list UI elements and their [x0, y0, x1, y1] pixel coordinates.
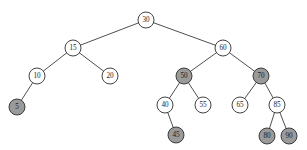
node-label-65: 65 [237, 101, 244, 109]
tree-node-20[interactable]: 20 [102, 68, 118, 84]
tree-node-80[interactable]: 80 [259, 128, 275, 144]
tree-edge-10-5 [21, 82, 33, 100]
tree-nodes: 30156010205070540556585458090 [9, 12, 297, 144]
tree-edge-15-10 [43, 53, 67, 72]
tree-node-55[interactable]: 55 [195, 97, 211, 113]
binary-tree-diagram: 30156010205070540556585458090 [0, 0, 307, 150]
node-label-5: 5 [15, 103, 19, 111]
tree-edge-85-80 [269, 112, 274, 129]
node-label-70: 70 [258, 72, 265, 80]
node-label-60: 60 [220, 44, 227, 52]
node-label-90: 90 [286, 132, 293, 140]
tree-node-90[interactable]: 90 [281, 128, 297, 144]
tree-node-60[interactable]: 60 [215, 40, 231, 56]
tree-node-70[interactable]: 70 [253, 68, 269, 84]
tree-node-15[interactable]: 15 [65, 40, 81, 56]
tree-node-50[interactable]: 50 [176, 68, 192, 84]
node-label-10: 10 [34, 72, 41, 80]
tree-edge-70-65 [244, 82, 256, 99]
tree-node-5[interactable]: 5 [9, 99, 25, 115]
tree-node-40[interactable]: 40 [157, 97, 173, 113]
tree-edge-15-20 [79, 53, 104, 72]
tree-edge-85-90 [280, 112, 287, 129]
tree-edge-70-85 [265, 83, 274, 99]
node-label-55: 55 [200, 101, 207, 109]
tree-edge-60-70 [229, 52, 255, 71]
tree-edge-30-15 [80, 23, 139, 46]
node-label-80: 80 [264, 132, 271, 140]
tree-edge-30-60 [153, 23, 216, 46]
tree-edge-60-50 [190, 52, 217, 71]
tree-node-85[interactable]: 85 [269, 97, 285, 113]
tree-node-45[interactable]: 45 [168, 127, 184, 143]
node-label-15: 15 [70, 44, 77, 52]
tree-canvas: 30156010205070540556585458090 [0, 0, 307, 150]
node-label-30: 30 [143, 16, 150, 24]
tree-node-65[interactable]: 65 [232, 97, 248, 113]
node-label-40: 40 [162, 101, 169, 109]
node-label-85: 85 [274, 101, 281, 109]
tree-edge-40-45 [168, 112, 174, 128]
node-label-45: 45 [173, 131, 180, 139]
node-label-20: 20 [107, 72, 114, 80]
tree-edges [21, 23, 286, 129]
tree-edge-50-55 [188, 82, 199, 98]
tree-node-30[interactable]: 30 [138, 12, 154, 28]
tree-node-10[interactable]: 10 [29, 68, 45, 84]
node-label-50: 50 [181, 72, 188, 80]
tree-edge-50-40 [169, 82, 180, 98]
